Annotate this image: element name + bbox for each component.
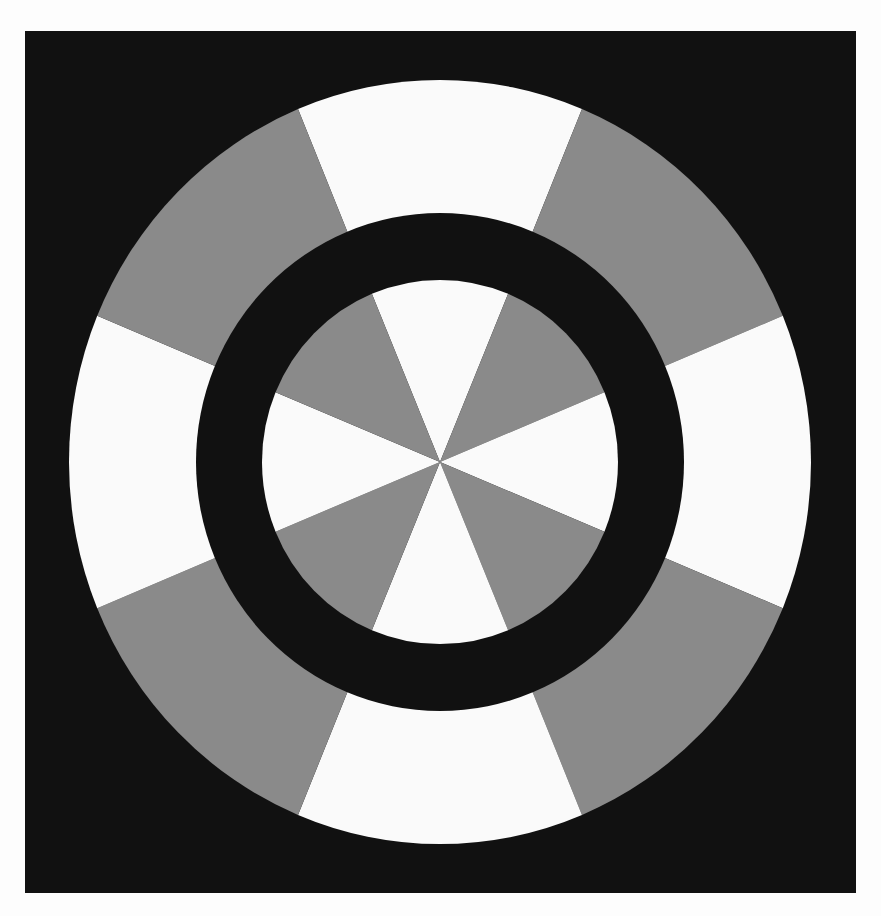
inner-sector-disc — [262, 280, 618, 644]
figure-canvas: Two concentric 8-sector alternating whit… — [0, 0, 881, 916]
concentric-sector-figure — [0, 0, 881, 916]
